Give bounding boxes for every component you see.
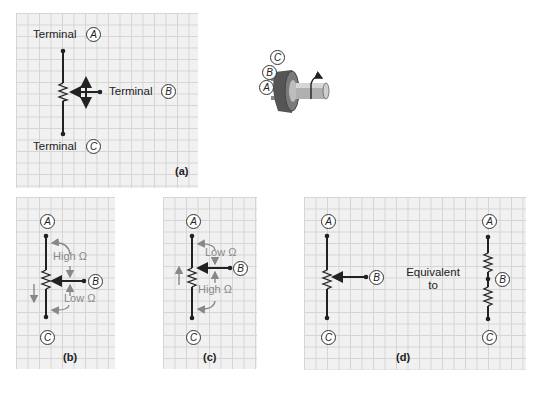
panel-d-left-terminal-b: B xyxy=(369,270,384,285)
terminal-a-label: Terminal xyxy=(33,28,76,40)
terminal-a-marker: A xyxy=(86,27,101,42)
panel-d-right-terminal-b: B xyxy=(495,272,510,287)
equivalent-line2: to xyxy=(398,279,468,292)
panel-a-caption: (a) xyxy=(175,165,188,177)
panel-d-right-terminal-c: C xyxy=(482,330,497,345)
panel-b-high-ohm-label: High Ω xyxy=(53,250,87,262)
knob-terminal-c: C xyxy=(270,50,285,65)
equivalent-line1: Equivalent xyxy=(398,266,468,279)
panel-c-terminal-a: A xyxy=(186,214,201,229)
panel-b-low-ohm-label: Low Ω xyxy=(64,292,95,304)
panel-c-terminal-b: B xyxy=(233,261,248,276)
knob-terminal-b: B xyxy=(262,65,277,80)
panel-b-terminal-a: A xyxy=(40,214,55,229)
panel-d-left-terminal-c: C xyxy=(321,330,336,345)
terminal-b-label: Terminal xyxy=(109,85,152,97)
panel-b-caption: (b) xyxy=(63,351,77,363)
panel-d-caption: (d) xyxy=(396,351,410,363)
panel-c-terminal-c: C xyxy=(186,330,201,345)
panel-b-terminal-b: B xyxy=(88,274,103,289)
panel-c-low-ohm-label: Low Ω xyxy=(205,246,236,258)
panel-a-potentiometer-symbol xyxy=(59,51,100,134)
panel-b-terminal-c: C xyxy=(40,330,55,345)
terminal-c-marker: C xyxy=(86,139,101,154)
terminal-b-marker: B xyxy=(161,84,176,99)
knob-terminal-a: A xyxy=(259,80,274,95)
panel-c-caption: (c) xyxy=(203,351,216,363)
panel-c-high-ohm-label: High Ω xyxy=(198,283,232,295)
potentiometer-knob-illustration xyxy=(271,70,329,113)
equivalent-to-label: Equivalent to xyxy=(398,266,468,292)
panel-d-left-terminal-a: A xyxy=(321,214,336,229)
panel-d-right-terminal-a: A xyxy=(482,214,497,229)
terminal-c-label: Terminal xyxy=(33,140,76,152)
